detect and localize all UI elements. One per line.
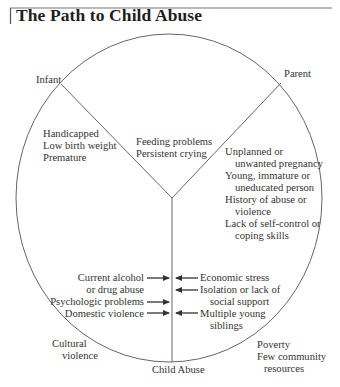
trigger-domestic-violence: Domestic violence	[50, 308, 144, 320]
factor-history-abuse: History of abuse or	[225, 194, 323, 206]
context-right: Poverty Few community resources	[257, 339, 326, 375]
factor-persistent-crying: Persistent crying	[136, 148, 212, 160]
context-poverty: Poverty	[257, 339, 326, 351]
factor-young-cont: uneducated person	[225, 182, 323, 194]
factor-unplanned-cont: unwanted pregnancy	[225, 158, 323, 170]
title-rule	[10, 8, 332, 24]
node-infant: Infant	[36, 74, 61, 86]
factor-low-birth-weight: Low birth weight	[43, 140, 117, 152]
factor-self-control: Lack of self-control or	[225, 218, 323, 230]
trigger-alcohol: Current alcohol	[50, 272, 144, 284]
right-arrows	[176, 278, 198, 313]
context-left: Cultural violence	[52, 338, 98, 362]
factor-self-control-cont: coping skills	[225, 230, 323, 242]
left-arrows	[147, 278, 169, 313]
trigger-alcohol-cont: or drug abuse	[50, 284, 144, 296]
trigger-siblings-cont: siblings	[200, 320, 280, 332]
factor-young: Young, immature or	[225, 170, 323, 182]
factor-feeding-problems: Feeding problems	[136, 136, 212, 148]
context-resources: resources	[257, 363, 326, 375]
factor-unplanned: Unplanned or	[225, 146, 323, 158]
trigger-isolation: Isolation or lack of	[200, 284, 280, 296]
factor-premature: Premature	[43, 152, 117, 164]
left-triggers: Current alcohol or drug abuse Psychologi…	[50, 272, 144, 320]
trigger-isolation-cont: social support	[200, 296, 280, 308]
infant-factors: Handicapped Low birth weight Premature	[43, 128, 117, 164]
trigger-psychologic: Psychologic problems	[50, 296, 144, 308]
context-cultural: Cultural	[52, 338, 98, 350]
context-few-community: Few community	[257, 351, 326, 363]
factor-history-abuse-cont: violence	[225, 206, 323, 218]
node-child-abuse: Child Abuse	[152, 364, 205, 376]
trigger-siblings: Multiple young	[200, 308, 280, 320]
factor-handicapped: Handicapped	[43, 128, 117, 140]
node-parent: Parent	[284, 68, 311, 80]
trigger-economic-stress: Economic stress	[200, 272, 280, 284]
parent-factors: Unplanned or unwanted pregnancy Young, i…	[225, 146, 323, 242]
right-triggers: Economic stress Isolation or lack of soc…	[200, 272, 280, 332]
context-cultural-cont: violence	[52, 350, 98, 362]
shared-factors: Feeding problems Persistent crying	[136, 136, 212, 160]
